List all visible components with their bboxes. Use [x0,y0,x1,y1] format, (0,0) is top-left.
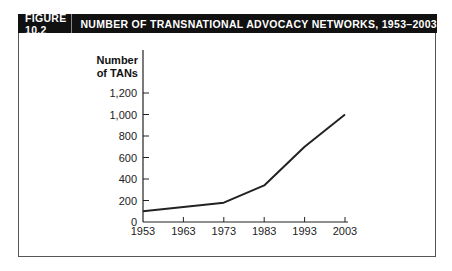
x-tick-label: 1983 [252,225,276,237]
series-line-tans [143,115,345,212]
line-chart: Numberof TANs 02004006008001,0001,200 19… [0,0,452,271]
x-tick-label: 1973 [212,225,236,237]
x-tick-label: 1963 [171,225,195,237]
y-tick-label: 1,000 [109,109,137,121]
y-axis-label: Numberof TANs [96,54,138,79]
y-axis-label-line: Number [96,54,138,66]
x-tick-label: 1993 [292,225,316,237]
x-axis-ticks: 195319631973198319932003 [131,217,357,237]
y-tick-label: 600 [119,152,137,164]
x-tick-label: 2003 [333,225,357,237]
y-tick-label: 400 [119,173,137,185]
y-tick-label: 1,200 [109,87,137,99]
y-tick-label: 800 [119,130,137,142]
y-axis-label-line: of TANs [97,67,138,79]
x-tick-label: 1953 [131,225,155,237]
y-tick-label: 200 [119,195,137,207]
